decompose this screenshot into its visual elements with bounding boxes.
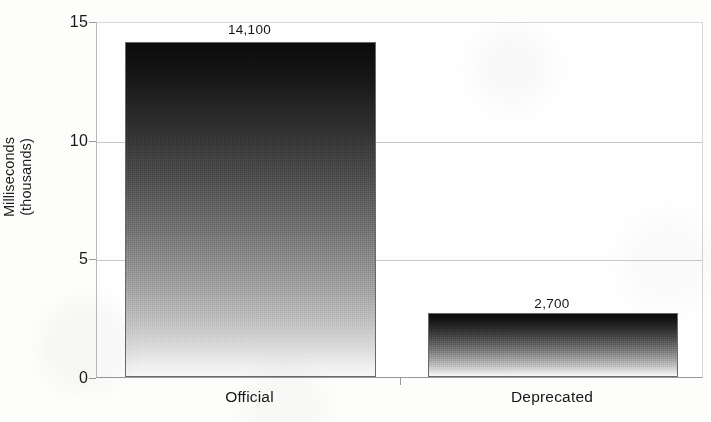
y-axis-tick-labels: 0 5 10 15 — [40, 22, 88, 378]
x-tick-mark-divider — [400, 378, 401, 385]
y-axis-title: Milliseconds (thousands) — [1, 112, 35, 242]
bar-deprecated[interactable] — [428, 313, 678, 377]
bar-chart: Milliseconds (thousands) 0 5 10 15 14,10… — [0, 0, 711, 422]
y-tick-mark-10 — [89, 141, 96, 142]
y-tick-label-15: 15 — [48, 13, 88, 31]
x-category-label-official: Official — [124, 388, 375, 406]
y-tick-mark-5 — [89, 259, 96, 260]
data-label-deprecated: 2,700 — [427, 296, 677, 311]
y-tick-mark-15 — [89, 22, 96, 23]
bar-official[interactable] — [125, 42, 376, 377]
y-axis-title-line-1: Milliseconds — [1, 112, 18, 242]
y-axis-title-line-2: (thousands) — [18, 112, 35, 242]
x-category-label-deprecated: Deprecated — [427, 388, 677, 406]
data-label-official: 14,100 — [124, 22, 375, 37]
y-tick-label-10: 10 — [48, 132, 88, 150]
plot-area — [96, 22, 703, 378]
y-tick-label-5: 5 — [48, 250, 88, 268]
y-tick-label-0: 0 — [48, 369, 88, 387]
y-tick-mark-0 — [89, 378, 96, 379]
